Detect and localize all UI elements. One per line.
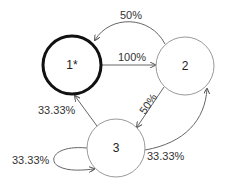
edge-label-3-to-3: 33.33% <box>12 154 50 166</box>
node-2: 2 <box>156 37 214 95</box>
edge-label-3-to-1: 33.33% <box>38 104 76 116</box>
node-2-label: 2 <box>182 59 189 73</box>
node-3: 3 <box>87 119 145 177</box>
node-1: 1* <box>43 36 101 94</box>
state-diagram: 50% 100% 50% 33.33% 33.33% 33.33% 1* 2 3 <box>0 0 225 187</box>
edge-label-2-to-3: 50% <box>137 91 160 116</box>
edge-label-1-to-2: 100% <box>118 51 146 63</box>
node-1-label: 1* <box>66 58 78 72</box>
edge-label-2-to-1: 50% <box>120 9 142 21</box>
edge-3-to-1 <box>75 96 97 126</box>
edge-2-to-1 <box>95 22 165 44</box>
node-3-label: 3 <box>113 141 120 155</box>
edge-label-3-to-2: 33.33% <box>147 150 185 162</box>
